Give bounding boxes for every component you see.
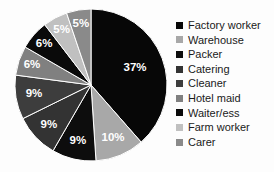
pie-data-label: 5% [73, 17, 90, 29]
legend-item-label: Packer [188, 47, 222, 62]
legend-item-label: Hotel maid [188, 91, 241, 106]
legend-swatch-icon [176, 139, 183, 146]
legend-item[interactable]: Warehouse [176, 33, 272, 48]
legend-swatch-icon [176, 22, 183, 29]
pie-chart-svg: 37%10%9%9%9%6%6%5%5% [14, 8, 168, 162]
legend-item[interactable]: Factory worker [176, 18, 272, 33]
pie-data-label: 6% [24, 58, 41, 70]
legend-item[interactable]: Cleaner [176, 76, 272, 91]
pie-data-label: 9% [41, 118, 58, 130]
legend-swatch-icon [176, 36, 183, 43]
legend-swatch-icon [176, 124, 183, 131]
legend-item[interactable]: Packer [176, 47, 272, 62]
pie-data-label: 6% [36, 37, 53, 49]
legend-swatch-icon [176, 66, 183, 73]
legend-item-label: Catering [188, 62, 230, 77]
pie-data-label: 9% [70, 134, 87, 146]
legend-swatch-icon [176, 51, 183, 58]
pie-data-label: 5% [53, 23, 70, 35]
legend-item[interactable]: Hotel maid [176, 91, 272, 106]
chart-legend: Factory workerWarehousePackerCateringCle… [176, 18, 272, 149]
legend-item-label: Farm worker [188, 120, 250, 135]
legend-swatch-icon [176, 80, 183, 87]
pie-data-label: 10% [102, 131, 125, 143]
pie-data-label: 37% [124, 61, 147, 73]
legend-item[interactable]: Farm worker [176, 120, 272, 135]
legend-item-label: Factory worker [188, 18, 261, 33]
pie-slice-group [15, 9, 167, 161]
pie-data-label: 9% [26, 87, 43, 99]
legend-item-label: Cleaner [188, 76, 227, 91]
legend-item-label: Waiter/ess [188, 106, 240, 121]
pie-chart-plot-area: 37%10%9%9%9%6%6%5%5% [14, 8, 168, 162]
pie-chart-figure: 37%10%9%9%9%6%6%5%5% Factory workerWareh… [0, 0, 274, 172]
legend-item-label: Carer [188, 135, 216, 150]
legend-item-label: Warehouse [188, 33, 244, 48]
legend-swatch-icon [176, 109, 183, 116]
legend-item[interactable]: Carer [176, 135, 272, 150]
legend-item[interactable]: Waiter/ess [176, 106, 272, 121]
legend-item[interactable]: Catering [176, 62, 272, 77]
legend-swatch-icon [176, 95, 183, 102]
